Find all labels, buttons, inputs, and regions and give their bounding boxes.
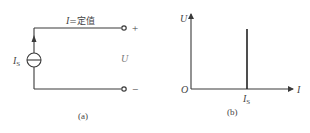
current-label: I=定值 <box>65 15 95 26</box>
minus-sign: − <box>132 83 138 95</box>
current-label-value: =定值 <box>69 15 95 26</box>
current-direction-arrow-icon <box>32 35 37 42</box>
source-label-sub: S <box>16 60 20 68</box>
origin-label: O <box>181 84 188 95</box>
is-tick-sub: S <box>246 98 250 106</box>
source-label: IS <box>12 55 20 68</box>
plus-sign: + <box>132 22 138 34</box>
caption-b: (b) <box>227 107 238 117</box>
diagram-canvas: I=定值 IS U + − (a) U I O IS (b) <box>0 0 310 133</box>
caption-a: (a) <box>78 111 88 121</box>
i-axis-label: I <box>296 84 301 95</box>
voltage-label: U <box>121 53 129 64</box>
figure-a-circuit <box>27 26 126 91</box>
terminal-plus-icon <box>122 26 126 30</box>
terminal-minus-icon <box>122 87 126 91</box>
figure-b-graph <box>191 14 293 89</box>
u-axis-label: U <box>180 13 188 24</box>
is-tick-label: IS <box>242 93 250 106</box>
